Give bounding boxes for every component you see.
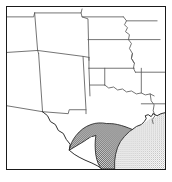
figure-caption [6,173,166,181]
locator-map-figure [0,0,172,182]
map-frame [6,6,166,170]
map-canvas [7,7,165,169]
